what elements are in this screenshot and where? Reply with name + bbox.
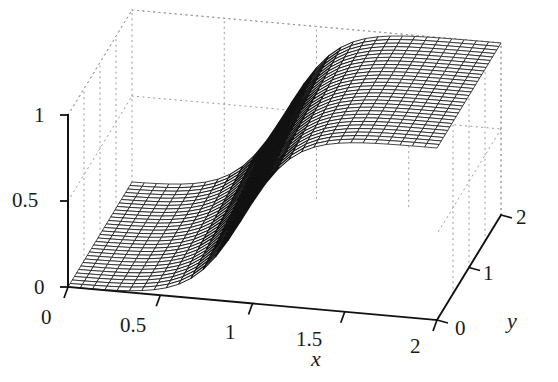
surface-mesh	[68, 36, 501, 291]
surface-plot-figure: 1 0.5 0 0 0.5 1 1.5 2 0 1 2 x y	[0, 0, 558, 382]
y-tick-label-1: 1	[483, 263, 494, 284]
x-tick-label-0: 0	[41, 307, 52, 328]
x-tick-label-1: 1	[225, 322, 236, 343]
x-axis-title: x	[311, 348, 321, 370]
surface-plot-canvas	[0, 0, 558, 382]
x-tick-label-2: 2	[410, 336, 421, 357]
x-tick-label-0-5: 0.5	[120, 315, 146, 336]
y-tick-label-0: 0	[455, 318, 466, 339]
z-tick-label-0-5: 0.5	[12, 190, 38, 211]
z-tick-label-0: 0	[34, 277, 45, 298]
y-tick-label-2: 2	[516, 207, 527, 228]
z-tick-label-1: 1	[34, 105, 45, 126]
y-axis-title: y	[507, 310, 517, 332]
